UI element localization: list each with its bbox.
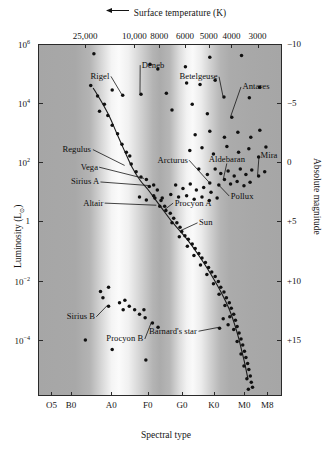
star-data-point <box>197 167 201 171</box>
top-axis-tick <box>185 44 186 48</box>
star-data-point <box>186 245 190 249</box>
star-data-point <box>172 216 176 220</box>
star-data-point <box>264 145 268 149</box>
star-data-point <box>208 129 212 133</box>
left-arrow-icon <box>106 6 130 16</box>
star-label-arcturus: Arcturus <box>158 155 188 165</box>
left-axis-tick-label: 102 <box>0 157 30 168</box>
star-data-point <box>204 261 208 265</box>
star-data-point <box>243 349 247 353</box>
star-data-point <box>107 285 111 289</box>
left-axis-title: Luminosity (L⊙) <box>13 205 26 268</box>
star-label-deneb: Deneb <box>142 60 165 70</box>
left-axis-tick <box>38 340 43 341</box>
star-data-point <box>180 230 184 234</box>
star-label-rigel: Rigel <box>90 71 109 81</box>
star-data-point <box>217 292 221 296</box>
star-data-point <box>247 147 251 151</box>
star-data-point <box>192 254 196 258</box>
star-data-point <box>219 285 223 289</box>
white-dwarf-points <box>99 285 160 329</box>
star-data-point <box>142 308 146 312</box>
star-data-point <box>158 204 162 208</box>
star-data-point <box>193 133 197 137</box>
star-data-point <box>110 88 114 92</box>
top-axis-tick <box>85 44 86 48</box>
top-axis-tick <box>159 44 160 48</box>
bottom-axis-title: Spectral type <box>0 430 332 440</box>
star-data-point <box>187 238 191 242</box>
star-data-point <box>110 348 114 352</box>
star-data-point <box>248 181 252 185</box>
star-data-point <box>98 109 102 113</box>
star-data-point <box>245 377 249 381</box>
solar-symbol: ⊙ <box>18 208 25 213</box>
star-data-point <box>133 308 137 312</box>
bottom-axis-tick-label: O5 <box>46 400 57 410</box>
star-data-point <box>116 132 120 136</box>
top-axis-tick-label: 3000 <box>249 31 267 41</box>
star-data-point <box>188 149 192 153</box>
star-data-point <box>213 167 217 171</box>
star-data-point <box>92 52 96 56</box>
star-data-point <box>239 167 243 171</box>
star-data-point <box>251 385 255 389</box>
right-axis-tick <box>277 340 282 341</box>
star-label-aldebaran: Aldebaran <box>209 154 245 164</box>
left-axis-tick-label: 106 <box>0 39 30 50</box>
star-data-point <box>223 178 227 182</box>
left-axis-tick <box>38 162 43 163</box>
star-data-point <box>228 301 232 305</box>
star-data-point <box>209 190 213 194</box>
star-data-point <box>232 174 236 178</box>
star-data-point <box>96 94 100 98</box>
star-data-point <box>226 169 230 173</box>
bottom-axis-tick-label: F0 <box>143 400 153 410</box>
star-data-point <box>178 226 182 230</box>
right-axis-tick-label: 0 <box>287 157 292 167</box>
bottom-axis-tick-label: A0 <box>106 400 117 410</box>
star-data-point <box>110 124 114 128</box>
left-axis-tick <box>38 103 43 104</box>
left-axis-tick-label: 1 <box>0 216 30 226</box>
top-axis-tick <box>209 44 210 48</box>
bottom-axis-tick <box>214 392 215 396</box>
star-data-point <box>125 151 129 155</box>
supergiant-points <box>92 52 261 119</box>
left-axis-tick <box>38 281 43 282</box>
star-label-regulus: Regulus <box>62 144 91 154</box>
top-axis-tick <box>134 44 135 48</box>
star-label-sirius-b: Sirius B <box>67 311 95 321</box>
right-axis-tick-label: −10 <box>287 39 301 49</box>
star-data-point <box>151 321 155 325</box>
star-data-point <box>217 183 221 187</box>
star-data-point <box>183 234 187 238</box>
left-axis-tick-label: 10−2 <box>0 275 30 286</box>
star-data-point <box>213 275 217 279</box>
star-data-point <box>156 188 160 192</box>
star-data-point <box>163 204 167 208</box>
star-data-point <box>247 368 251 372</box>
top-axis-tick-label: 10,000 <box>122 31 147 41</box>
star-data-point <box>159 199 163 203</box>
star-data-point <box>232 328 236 332</box>
star-data-point <box>215 196 219 200</box>
right-axis-tick <box>277 44 282 45</box>
left-axis-title-close: ) <box>13 205 23 208</box>
top-axis-tick <box>231 44 232 48</box>
star-data-point <box>230 115 234 119</box>
star-data-point <box>234 319 238 323</box>
star-data-point <box>223 135 227 139</box>
star-data-point <box>223 304 227 308</box>
star-data-point <box>189 182 193 186</box>
star-data-point <box>248 96 252 100</box>
star-data-point <box>84 338 88 342</box>
left-axis-tick <box>38 44 43 45</box>
star-data-point <box>229 182 233 186</box>
star-data-point <box>236 131 240 135</box>
bottom-axis-tick <box>267 392 268 396</box>
star-label-antares: Antares <box>242 81 269 91</box>
right-axis-tick-label: +10 <box>287 276 301 286</box>
star-data-point <box>225 296 229 300</box>
star-data-point <box>185 81 189 85</box>
